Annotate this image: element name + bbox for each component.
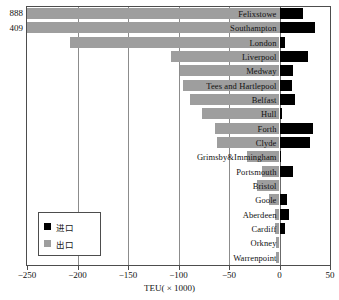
bar-import	[280, 108, 282, 119]
truncated-value-label: 409	[1, 23, 23, 33]
chart-bar-row: Goole	[27, 193, 330, 207]
bar-category-label: Orkney	[250, 236, 276, 250]
chart-bar-row: Hull	[27, 107, 330, 121]
bar-import	[280, 65, 293, 76]
bar-category-label: Tees and Hartlepool	[206, 79, 276, 93]
bar-category-label: Cardiff	[251, 222, 276, 236]
bar-import	[280, 209, 289, 220]
bar-category-label: Southampton	[230, 21, 276, 35]
bar-import	[280, 194, 287, 205]
x-axis-tick-label: −200	[61, 270, 95, 281]
legend-label-imports: 进口	[56, 221, 74, 233]
chart-legend: 进口 出口	[38, 212, 101, 256]
chart-bar-row: Bristol	[27, 179, 330, 193]
bar-category-label: Belfast	[252, 93, 277, 107]
bar-category-label: Clyde	[256, 136, 277, 150]
bar-import	[280, 8, 303, 19]
bar-category-label: Hull	[261, 107, 277, 121]
bar-import	[280, 151, 281, 162]
x-axis-tick-label: −50	[212, 270, 246, 281]
legend-label-exports: 出口	[56, 238, 74, 250]
x-axis-tick-label: 0	[263, 270, 297, 281]
x-axis-tick-label: −150	[111, 270, 145, 281]
bar-category-label: Aberdeen	[243, 208, 277, 222]
bar-category-label: Liverpool	[242, 50, 276, 64]
bar-import	[280, 137, 310, 148]
bar-category-label: Grimsby&Immingham	[197, 150, 277, 164]
chart-bar-row: Forth	[27, 122, 330, 136]
bar-category-label: Felixstowe	[238, 7, 276, 21]
bar-import	[280, 123, 313, 134]
chart-bar-row: Tees and Hartlepool	[27, 79, 330, 93]
horizontal-bar-chart: FelixstoweSouthamptonLondonLiverpoolMedw…	[0, 0, 339, 300]
chart-bar-row: Belfast	[27, 93, 330, 107]
bar-category-label: Goole	[255, 193, 276, 207]
bar-category-label: Warrenpoint	[233, 251, 276, 265]
x-axis-tick-label: −250	[10, 270, 44, 281]
chart-bar-row: Felixstowe	[27, 7, 330, 21]
chart-bar-row: Southampton	[27, 21, 330, 35]
bar-import	[280, 37, 285, 48]
x-axis-tick-label: 50	[313, 270, 339, 281]
bar-import	[280, 166, 293, 177]
chart-bar-row: Medway	[27, 64, 330, 78]
chart-bar-row: Portsmouth	[27, 165, 330, 179]
bar-export	[70, 37, 279, 48]
bar-category-label: Medway	[246, 64, 276, 78]
chart-bar-row: London	[27, 36, 330, 50]
bar-category-label: Forth	[258, 122, 277, 136]
bar-import	[280, 80, 292, 91]
bar-import	[280, 223, 285, 234]
legend-item-exports: 出口	[44, 235, 100, 252]
legend-swatch-exports-icon	[44, 240, 51, 247]
chart-bar-row: Clyde	[27, 136, 330, 150]
x-axis-tick-label: −100	[162, 270, 196, 281]
legend-swatch-imports-icon	[44, 223, 51, 230]
bar-import	[280, 51, 308, 62]
truncated-value-label: 888	[1, 8, 23, 18]
legend-item-imports: 进口	[44, 218, 100, 235]
bar-category-label: Bristol	[253, 179, 277, 193]
bar-import	[280, 22, 315, 33]
bar-category-label: Portsmouth	[236, 165, 276, 179]
x-axis-title: TEU( × 1000)	[0, 283, 339, 293]
bar-category-label: London	[249, 36, 276, 50]
bar-import	[280, 94, 295, 105]
chart-bar-row: Grimsby&Immingham	[27, 150, 330, 164]
chart-bar-row: Liverpool	[27, 50, 330, 64]
